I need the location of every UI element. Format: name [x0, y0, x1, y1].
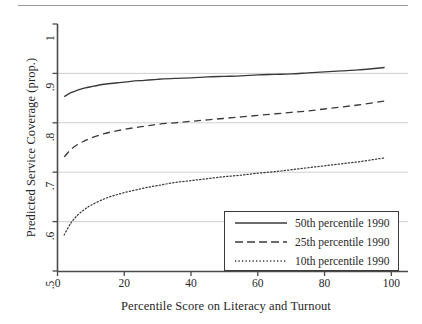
legend-label-1: 25th percentile 1990 [295, 236, 390, 248]
chart-figure: Predicted Service Coverage (prop.) Perce… [0, 0, 422, 324]
gridlines [58, 73, 409, 221]
data-curves [64, 67, 384, 234]
plot-area [0, 0, 422, 324]
legend-item-0: 50th percentile 1990 [225, 213, 400, 233]
legend-label-2: 10th percentile 1990 [295, 255, 390, 267]
legend-item-1: 25th percentile 1990 [225, 232, 400, 252]
legend-item-2: 10th percentile 1990 [225, 251, 400, 271]
curve-0 [64, 67, 384, 96]
legend-swatch-solid [233, 216, 289, 230]
legend-swatch-dashed [233, 235, 289, 249]
curve-1 [64, 101, 384, 157]
legend-label-0: 50th percentile 1990 [295, 217, 390, 229]
legend-swatch-dotted [233, 254, 289, 268]
legend: 50th percentile 1990 25th percentile 199… [224, 211, 399, 271]
